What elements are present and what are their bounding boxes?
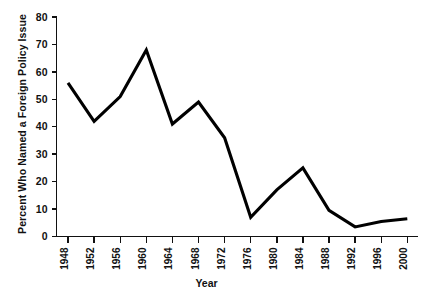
x-axis-tick-label: 1968 (190, 247, 201, 270)
x-axis-title-wrap: Year (0, 277, 435, 289)
plot-area: 01020304050607080 1948195219561960196419… (0, 0, 435, 297)
y-axis-tick-label: 40 (36, 120, 48, 132)
y-axis-tick-label: 0 (42, 230, 48, 242)
x-axis-tick-labels: 1948195219561960196419681972197619801984… (59, 247, 409, 270)
y-axis-tick-label: 20 (36, 175, 48, 187)
line-chart: Percent Who Named a Foreign Policy Issue… (0, 0, 435, 297)
y-axis-tick-label: 70 (36, 38, 48, 50)
x-axis-tick-label: 1992 (346, 247, 357, 270)
x-axis-tick-label: 1956 (111, 247, 122, 270)
x-axis-tick-label: 1952 (85, 247, 96, 270)
x-axis-tick-label: 1988 (320, 247, 331, 270)
x-axis-tick-label: 1972 (216, 247, 227, 270)
y-axis-tick-label: 10 (36, 203, 48, 215)
x-axis-tick-label: 1980 (268, 247, 279, 270)
data-series-line (68, 50, 407, 227)
y-axis-tick-label: 60 (36, 66, 48, 78)
x-axis-tick-label: 1996 (372, 247, 383, 270)
x-axis-title: Year (195, 277, 217, 289)
x-axis-tick-marks (68, 237, 407, 243)
y-axis-tick-labels: 01020304050607080 (36, 11, 48, 243)
y-axis-tick-label: 30 (36, 148, 48, 160)
y-axis-tick-label: 50 (36, 93, 48, 105)
x-axis-tick-label: 1948 (59, 247, 70, 270)
x-axis-tick-label: 1964 (163, 247, 174, 270)
x-axis-tick-label: 1984 (294, 247, 305, 270)
x-axis-tick-label: 1976 (242, 247, 253, 270)
x-axis-tick-label: 2000 (398, 247, 409, 270)
x-axis-tick-label: 1960 (137, 247, 148, 270)
y-axis-tick-label: 80 (36, 11, 48, 23)
